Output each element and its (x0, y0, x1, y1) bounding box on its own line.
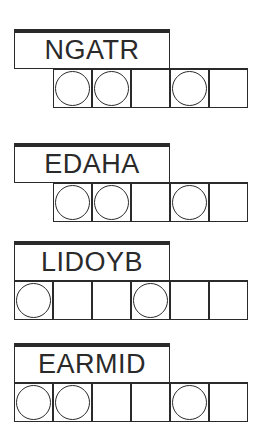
scrambled-word: NGATR (14, 29, 170, 69)
answer-cell-circled[interactable] (170, 183, 209, 222)
jumble-word-1: NGATR (0, 29, 269, 129)
answer-cell[interactable] (131, 383, 170, 422)
answer-cell[interactable] (53, 281, 92, 320)
scrambled-word: EDAHA (14, 143, 170, 183)
circle-icon (16, 283, 51, 318)
answer-cell[interactable] (131, 183, 170, 222)
answer-cell-circled[interactable] (170, 383, 209, 422)
jumble-word-2: EDAHA (0, 143, 269, 243)
circle-icon (55, 185, 90, 220)
answer-cell-circled[interactable] (53, 383, 92, 422)
scrambled-word: EARMID (14, 343, 170, 383)
answer-cell[interactable] (209, 69, 248, 108)
answer-cell-circled[interactable] (14, 383, 53, 422)
answer-cell[interactable] (92, 281, 131, 320)
circle-icon (55, 385, 90, 420)
circle-icon (172, 385, 207, 420)
circle-icon (16, 385, 51, 420)
answer-cell-circled[interactable] (14, 281, 53, 320)
answer-cell-circled[interactable] (92, 183, 131, 222)
answer-cell-circled[interactable] (53, 183, 92, 222)
circle-icon (172, 71, 207, 106)
answer-cell[interactable] (170, 281, 209, 320)
answer-cell[interactable] (209, 383, 248, 422)
answer-cell[interactable] (209, 183, 248, 222)
answer-cell-circled[interactable] (53, 69, 92, 108)
jumble-word-3: LIDOYB (0, 241, 269, 341)
answer-cell-circled[interactable] (92, 69, 131, 108)
circle-icon (94, 71, 129, 106)
answer-cell-circled[interactable] (131, 281, 170, 320)
answer-cell[interactable] (92, 383, 131, 422)
jumble-word-4: EARMID (0, 343, 269, 443)
circle-icon (55, 71, 90, 106)
answer-cell[interactable] (131, 69, 170, 108)
answer-cell[interactable] (209, 281, 248, 320)
answer-cell-circled[interactable] (170, 69, 209, 108)
circle-icon (94, 185, 129, 220)
circle-icon (172, 185, 207, 220)
circle-icon (133, 283, 168, 318)
scrambled-word: LIDOYB (14, 241, 170, 281)
